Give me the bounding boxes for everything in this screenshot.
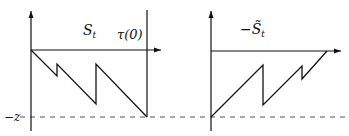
level-label: −z — [4, 110, 21, 124]
left-process-label: St — [83, 22, 97, 40]
right-panel: −S̃t — [211, 11, 341, 131]
diagram-canvas: St τ(0) −z −S̃t — [0, 0, 349, 136]
left-panel: St τ(0) −z — [4, 10, 161, 131]
left-path — [31, 50, 147, 117]
right-path — [211, 51, 327, 117]
right-process-label: −S̃t — [240, 20, 265, 39]
tau-label: τ(0) — [117, 27, 143, 42]
